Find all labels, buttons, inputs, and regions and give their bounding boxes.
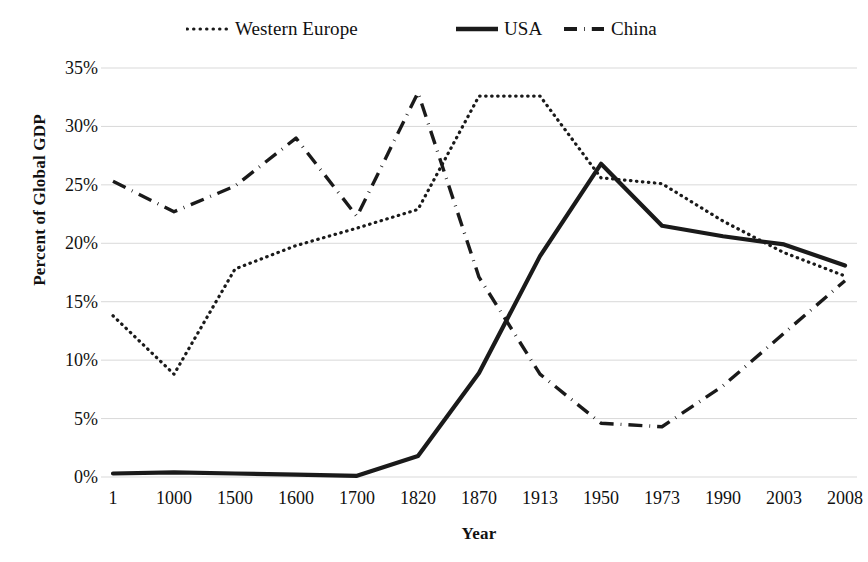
x-axis-tick-label: 2003 xyxy=(766,488,802,508)
series-line-usa xyxy=(113,164,845,476)
x-axis-tick-label: 1 xyxy=(109,488,118,508)
series-line-western-europe xyxy=(113,96,845,374)
x-axis-tick-label: 1000 xyxy=(156,488,192,508)
x-axis-tick-label: 1950 xyxy=(583,488,619,508)
x-axis-tick-label: 1913 xyxy=(522,488,558,508)
x-axis-tick-labels: 1100015001600170018201870191319501973199… xyxy=(113,488,845,514)
x-axis-tick-label: 1600 xyxy=(278,488,314,508)
x-axis-title: Year xyxy=(113,524,845,544)
x-axis-tick-label: 1500 xyxy=(217,488,253,508)
series-line-china xyxy=(113,93,845,427)
x-axis-tick-label: 1700 xyxy=(339,488,375,508)
x-axis-tick-label: 1820 xyxy=(400,488,436,508)
plot-area xyxy=(0,0,868,562)
x-axis-tick-label: 1973 xyxy=(644,488,680,508)
gdp-share-line-chart: Western Europe USA China Percent of Glob… xyxy=(0,0,868,562)
x-axis-tick-label: 2008 xyxy=(827,488,863,508)
x-axis-tick-label: 1990 xyxy=(705,488,741,508)
x-axis-tick-label: 1870 xyxy=(461,488,497,508)
